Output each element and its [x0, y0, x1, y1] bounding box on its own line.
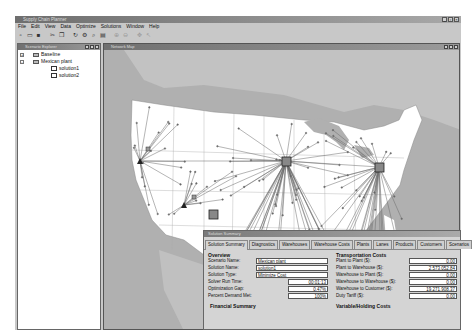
- warehouse-to-customer-label: Warehouse to Customer ($):: [336, 286, 393, 292]
- plant-to-warehouse-field: 2,573,052.84: [409, 265, 457, 271]
- tab-warehouses[interactable]: Warehouses: [279, 240, 310, 249]
- zoom-in-icon[interactable]: ⊕: [113, 32, 120, 39]
- solver-run-time-field: 00:01:13: [288, 279, 328, 285]
- solution-tabs: Solution Summary Diagnostics Warehouses …: [204, 240, 460, 250]
- folder-icon: [33, 60, 39, 64]
- warehouse-to-plant-label: Warehouse to Plant ($):: [336, 272, 383, 278]
- map-minimize-button[interactable]: [444, 45, 448, 49]
- optimization-gap-label: Optimization Gap:: [208, 286, 244, 292]
- scenario-name-label: Scenario Name:: [208, 258, 240, 264]
- zoom-icon[interactable]: ⌕: [90, 32, 97, 39]
- plant-to-plant-field: 0.00: [409, 258, 457, 264]
- scenario-name-field[interactable]: Mexican plant: [256, 258, 328, 264]
- tree-node-mexican-plant[interactable]: - Mexican plant: [18, 58, 100, 65]
- tab-customers[interactable]: Customers: [417, 240, 445, 249]
- save-icon[interactable]: ■: [35, 32, 42, 39]
- menu-window[interactable]: Window: [126, 23, 144, 30]
- solution-icon: [51, 66, 57, 71]
- solution-type-label: Solution Type:: [208, 272, 236, 278]
- tree-close-button[interactable]: [95, 45, 99, 49]
- optimization-gap-field: 0.47%: [288, 286, 328, 292]
- menu-file[interactable]: File: [18, 23, 26, 30]
- tree-node-label: Baseline: [41, 51, 60, 58]
- warehouse-to-plant-field: 0.00: [409, 272, 457, 278]
- expand-icon[interactable]: +: [20, 53, 24, 57]
- tab-warehouse-costs[interactable]: Warehouse Costs: [311, 240, 353, 249]
- new-icon[interactable]: ▫: [17, 32, 24, 39]
- menu-view[interactable]: View: [45, 23, 56, 30]
- menu-optimize[interactable]: Optimize: [76, 23, 96, 30]
- solver-run-time-label: Solver Run Time:: [208, 279, 243, 285]
- plant-to-plant-label: Plant to Plant ($):: [336, 258, 371, 264]
- tree-title: Scenario Explorer: [25, 44, 57, 49]
- close-button[interactable]: ×: [454, 17, 459, 22]
- scenario-tree-window: Scenario Explorer + Baseline - Mexican p…: [17, 43, 101, 330]
- minimize-button[interactable]: _: [442, 17, 447, 22]
- menu-edit[interactable]: Edit: [31, 23, 40, 30]
- percent-demand-met-label: Percent Demand Met:: [208, 293, 252, 299]
- solution-icon: [51, 73, 57, 78]
- zoom-out-icon[interactable]: ⊖: [122, 32, 129, 39]
- financial-summary-title: Financial Summary: [210, 303, 256, 309]
- cut-icon[interactable]: ✂: [49, 32, 56, 39]
- duty-tariff-field: 0.00: [409, 293, 457, 299]
- tree-node-label: solution2: [59, 72, 79, 79]
- warehouse-to-warehouse-field: 0.00: [409, 279, 457, 285]
- optimize-icon[interactable]: ⚙: [81, 32, 88, 39]
- tab-plants[interactable]: Plants: [354, 240, 373, 249]
- refresh-icon[interactable]: ↻: [72, 32, 79, 39]
- application-window: Supply Chain Planner _ ▫ × File Edit Vie…: [15, 16, 461, 330]
- tab-lanes[interactable]: Lanes: [373, 240, 391, 249]
- solution-panel-title: Solution Summary: [204, 231, 460, 237]
- percent-demand-met-field: 100%: [288, 293, 328, 299]
- warehouse-to-customer-field: 19,271,908.37: [409, 286, 457, 292]
- tab-solution-summary[interactable]: Solution Summary: [205, 240, 248, 250]
- app-titlebar: Supply Chain Planner _ ▫ ×: [15, 16, 461, 23]
- collapse-icon[interactable]: -: [20, 60, 24, 64]
- pan-icon[interactable]: ✥: [136, 32, 143, 39]
- solution-panel: Solution Summary Solution Summary Diagno…: [203, 230, 461, 330]
- menu-solutions[interactable]: Solutions: [101, 23, 122, 30]
- app-title: Supply Chain Planner: [23, 17, 67, 22]
- warehouse-marker-central: [282, 157, 291, 166]
- toolbar: ▫▭■✂❐↻⚙⌕▤⊕⊖✥↖: [15, 30, 463, 40]
- warehouse-to-warehouse-label: Warehouse to Warehouse ($):: [336, 279, 396, 285]
- tree-titlebar: Scenario Explorer: [18, 44, 100, 50]
- solution-name-label: Solution Name:: [208, 265, 239, 271]
- solution-name-field[interactable]: solution1: [256, 265, 328, 271]
- variable-holding-costs-title: Variable/Holding Costs: [336, 303, 390, 309]
- maximize-button[interactable]: ▫: [448, 17, 453, 22]
- tab-scenarios[interactable]: Scenarios: [446, 240, 472, 249]
- tree-node-label: Mexican plant: [41, 58, 72, 65]
- open-icon[interactable]: ▭: [26, 32, 33, 39]
- tab-diagnostics[interactable]: Diagnostics: [249, 240, 278, 249]
- folder-icon: [33, 53, 39, 57]
- map-title: Network Map: [111, 44, 135, 49]
- map-close-button[interactable]: [454, 45, 458, 49]
- copy-icon[interactable]: ❐: [58, 32, 65, 39]
- menu-bar: File Edit View Data Optimize Solutions W…: [15, 23, 464, 30]
- solution-type-field[interactable]: Minimize Cost: [256, 272, 328, 278]
- tree-node-baseline[interactable]: + Baseline: [18, 51, 100, 58]
- tree-node-solution1[interactable]: solution1: [18, 65, 100, 72]
- duty-tariff-label: Duty Tariff ($):: [336, 293, 364, 299]
- tab-products[interactable]: Products: [393, 240, 417, 249]
- report-icon[interactable]: ▤: [99, 32, 106, 39]
- menu-data[interactable]: Data: [60, 23, 71, 30]
- select-icon[interactable]: ↖: [145, 32, 152, 39]
- tree-minimize-button[interactable]: [85, 45, 89, 49]
- tree-node-solution2[interactable]: solution2: [18, 72, 100, 79]
- tree-node-label: solution1: [59, 65, 79, 72]
- plant-to-warehouse-label: Plant to Warehouse ($):: [336, 265, 383, 271]
- menu-help[interactable]: Help: [149, 23, 159, 30]
- warehouse-marker-east: [375, 163, 384, 172]
- map-maximize-button[interactable]: [449, 45, 453, 49]
- tree-maximize-button[interactable]: [90, 45, 94, 49]
- warehouse-marker-south: [209, 210, 218, 219]
